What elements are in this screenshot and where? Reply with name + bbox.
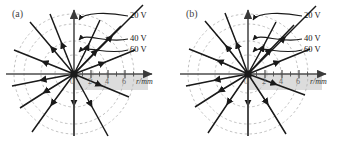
equipotential-label-60v: 60 V: [130, 44, 147, 54]
tick-label-2: 2: [88, 77, 92, 86]
leader-40v: [79, 37, 128, 40]
tick-label-0: 0: [70, 77, 74, 86]
equipotential-label-20v: 20 V: [304, 10, 321, 20]
panel-a: (a): [0, 0, 173, 141]
figure-root: (a): [0, 0, 347, 141]
equipotential-label-40v: 40 V: [304, 33, 321, 43]
equipotential-label-60v: 60 V: [304, 44, 321, 54]
panel-b: (b): [174, 0, 347, 141]
tick-label-6: 6: [122, 77, 126, 86]
leader-lines: [79, 13, 128, 52]
leader-40v: [253, 37, 302, 40]
r-axis-label: r/mm: [310, 77, 327, 86]
cartesian-axes: [180, 10, 326, 136]
leader-20v: [253, 13, 302, 20]
r-axis-label: r/mm: [136, 77, 153, 86]
tick-label-4: 4: [105, 77, 109, 86]
panel-b-plot: [174, 0, 347, 141]
tick-label-2: 2: [262, 77, 266, 86]
tick-label-4: 4: [279, 77, 283, 86]
leader-lines: [253, 13, 302, 52]
cartesian-axes: [6, 10, 152, 136]
tick-label-6: 6: [296, 77, 300, 86]
equipotential-label-20v: 20 V: [130, 10, 147, 20]
tick-label-0: 0: [244, 77, 248, 86]
equipotential-label-40v: 40 V: [130, 33, 147, 43]
leader-20v: [79, 13, 128, 20]
panel-a-plot: [0, 0, 173, 141]
